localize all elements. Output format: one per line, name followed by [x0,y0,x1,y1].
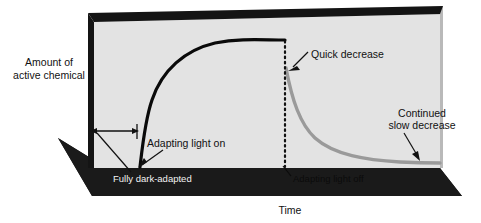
annotation-continued-slow-decrease: Continued slow decrease [372,107,472,131]
retinal-adaptation-diagram: Amount of active chemical Time Quick dec… [0,0,481,223]
x-axis-label: Time [252,204,328,217]
panel-left-edge [88,13,94,168]
annotation-adapting-light-off: Adapting light off [293,173,364,186]
annotation-fully-dark-adapted: Fully dark-adapted [113,173,192,186]
plot-panel [94,14,440,168]
annotation-adapting-light-on: Adapting light on [147,137,225,150]
panel-right-edge [440,6,443,168]
annotation-quick-decrease: Quick decrease [311,48,384,61]
y-axis-label: Amount of active chemical [12,56,86,81]
